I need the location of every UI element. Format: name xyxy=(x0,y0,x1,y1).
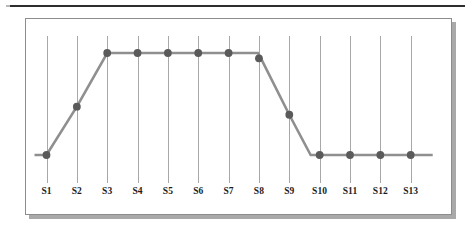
series-line-group xyxy=(35,53,433,155)
x-axis-label-s3: S3 xyxy=(102,186,112,196)
data-point-s9 xyxy=(285,111,293,119)
markers-group xyxy=(43,49,415,159)
x-axis-label-s9: S9 xyxy=(284,186,294,196)
data-point-s13 xyxy=(407,151,415,159)
data-point-s1 xyxy=(43,151,51,159)
figure-page: S1S2S3S4S5S6S7S8S9S10S11S12S13 xyxy=(0,0,475,235)
data-point-s11 xyxy=(346,151,354,159)
x-axis-label-s7: S7 xyxy=(223,186,233,196)
data-point-s6 xyxy=(194,49,202,57)
x-axis-label-s12: S12 xyxy=(373,186,388,196)
gridlines xyxy=(48,36,412,183)
data-point-s10 xyxy=(316,151,324,159)
x-axis-label-s8: S8 xyxy=(254,186,264,196)
x-axis-label-s4: S4 xyxy=(132,186,142,196)
x-axis-label-s1: S1 xyxy=(41,186,51,196)
data-point-s4 xyxy=(134,49,142,57)
x-axis-label-s10: S10 xyxy=(312,186,327,196)
x-axis-label-s11: S11 xyxy=(343,186,358,196)
x-axis-label-s5: S5 xyxy=(163,186,173,196)
x-axis-label-s13: S13 xyxy=(403,186,418,196)
data-point-s2 xyxy=(73,103,81,111)
x-axis-labels: S1S2S3S4S5S6S7S8S9S10S11S12S13 xyxy=(0,186,475,202)
data-point-s8 xyxy=(255,54,263,62)
series-line xyxy=(35,53,433,155)
x-axis-label-s2: S2 xyxy=(72,186,82,196)
data-point-s12 xyxy=(376,151,384,159)
data-point-s7 xyxy=(225,49,233,57)
data-point-s3 xyxy=(103,49,111,57)
x-axis-label-s6: S6 xyxy=(193,186,203,196)
data-point-s5 xyxy=(164,49,172,57)
